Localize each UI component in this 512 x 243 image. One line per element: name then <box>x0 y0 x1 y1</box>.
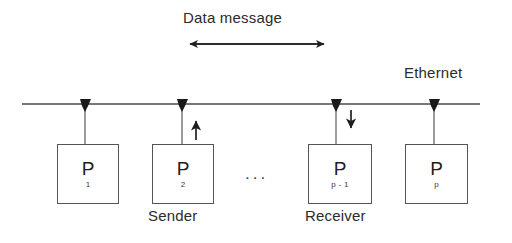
sender-label: Sender <box>148 208 198 223</box>
node-p2-name: P <box>153 159 213 178</box>
node-pp-name: P <box>406 159 467 178</box>
ellipsis-separator: ... <box>245 165 268 182</box>
diagram-vector-layer <box>0 0 512 243</box>
node-box-p2[interactable]: P 2 <box>152 144 214 204</box>
bus-tap-p2-icon <box>177 99 188 112</box>
node-pp1-subscript: p - 1 <box>309 181 371 189</box>
diagram-canvas: Data message Ethernet P 1 P 2 Sender ...… <box>0 0 512 243</box>
node-p2-glyphs: P 2 <box>153 145 213 203</box>
node-p1-glyphs: P 1 <box>58 145 118 203</box>
node-pp-subscript: p <box>406 181 467 189</box>
node-box-p1[interactable]: P 1 <box>57 144 119 204</box>
bus-taps <box>80 99 440 112</box>
node-box-pp1[interactable]: P p - 1 <box>308 144 372 204</box>
node-pp1-name: P <box>309 159 371 178</box>
node-p1-subscript: 1 <box>58 181 118 189</box>
ethernet-label: Ethernet <box>404 65 462 80</box>
node-pp-glyphs: P p <box>406 145 467 203</box>
node-drop-lines <box>85 104 434 144</box>
bus-tap-p1-icon <box>80 99 91 112</box>
receiver-label: Receiver <box>305 208 366 223</box>
bus-tap-pp1-icon <box>331 99 342 112</box>
node-p2-subscript: 2 <box>153 181 213 189</box>
bus-tap-pp-icon <box>429 99 440 112</box>
data-message-label: Data message <box>183 10 282 25</box>
node-pp1-glyphs: P p - 1 <box>309 145 371 203</box>
node-box-pp[interactable]: P p <box>405 144 468 204</box>
node-p1-name: P <box>58 159 118 178</box>
